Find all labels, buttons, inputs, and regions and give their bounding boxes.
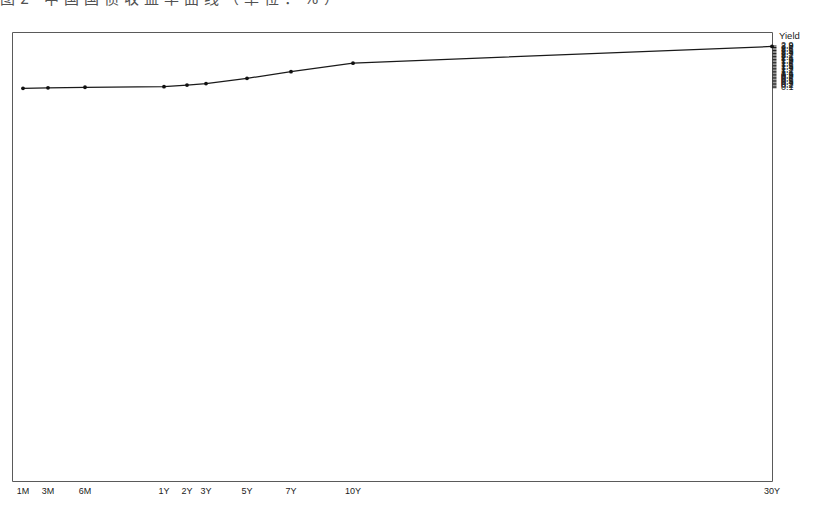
- yield-curve-line: [23, 46, 772, 88]
- x-axis-tick-label: 10Y: [333, 487, 373, 496]
- data-point-1M: [21, 86, 25, 90]
- x-axis-tick-label: 3M: [28, 487, 68, 496]
- x-axis-tick-label: 7Y: [271, 487, 311, 496]
- data-point-3Y: [204, 82, 208, 86]
- data-point-2Y: [185, 83, 189, 87]
- data-point-6M: [83, 85, 87, 89]
- data-point-3M: [46, 86, 50, 90]
- data-point-5Y: [245, 76, 249, 80]
- plot-frame: [13, 33, 773, 482]
- x-axis-tick-label: 30Y: [752, 487, 792, 496]
- data-point-10Y: [351, 61, 355, 65]
- data-point-30Y: [770, 45, 774, 49]
- yield-curve-chart: Yield 2.92.82.72.62.52.42.32.22.121.91.8…: [0, 0, 818, 508]
- x-axis-tick-label: 6M: [65, 487, 105, 496]
- x-axis-tick-label: 3Y: [186, 487, 226, 496]
- data-point-7Y: [289, 70, 293, 74]
- y-axis-tick-label: 0.1: [781, 83, 794, 92]
- data-point-1Y: [162, 85, 166, 89]
- plot-canvas: [0, 0, 818, 508]
- x-axis-tick-label: 5Y: [227, 487, 267, 496]
- y-axis-tick-marks: [773, 46, 777, 88]
